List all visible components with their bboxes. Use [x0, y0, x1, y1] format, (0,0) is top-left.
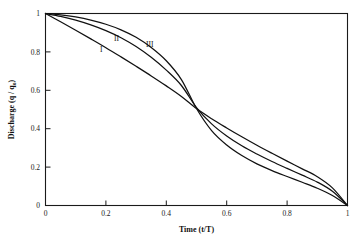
y-tick-label: 0.2 [31, 163, 41, 172]
x-tick-marks [46, 201, 348, 206]
y-tick-label: 0.6 [31, 86, 41, 95]
curves-group [46, 14, 348, 206]
x-tick-label: 0.2 [101, 209, 111, 218]
curve-labels-group: I II III [100, 34, 154, 54]
x-axis-title: Time (t/T) [179, 225, 215, 234]
curve-III [46, 14, 348, 206]
x-tick-label: 0.4 [162, 209, 172, 218]
chart-figure: 0 0.2 0.4 0.6 0.8 1 0 0.2 0.4 0.6 0.8 1 … [0, 0, 364, 244]
y-axis-title: Discharge (q / qo) [7, 79, 17, 139]
x-tick-label: 0.8 [282, 209, 292, 218]
chart-plot-svg: 0 0.2 0.4 0.6 0.8 1 0 0.2 0.4 0.6 0.8 1 … [0, 0, 364, 244]
y-tick-label: 1 [36, 9, 40, 18]
y-tick-marks [46, 14, 51, 206]
y-axis-title-main: Discharge (q / q [7, 85, 16, 140]
y-tick-label: 0.4 [31, 124, 41, 133]
y-axis-title-close: ) [7, 79, 16, 82]
curve-label-II: II [114, 34, 119, 43]
y-tick-label: 0.8 [31, 48, 41, 57]
x-tick-label: 0 [44, 209, 48, 218]
x-tick-labels: 0 0.2 0.4 0.6 0.8 1 [44, 209, 350, 218]
y-tick-label: 0 [36, 201, 40, 210]
curve-label-III: III [146, 40, 154, 49]
x-tick-label: 0.6 [222, 209, 232, 218]
y-tick-labels: 0 0.2 0.4 0.6 0.8 1 [31, 9, 41, 210]
svg-text:Discharge (q / qo): Discharge (q / qo) [7, 79, 17, 139]
x-tick-label: 1 [346, 209, 350, 218]
